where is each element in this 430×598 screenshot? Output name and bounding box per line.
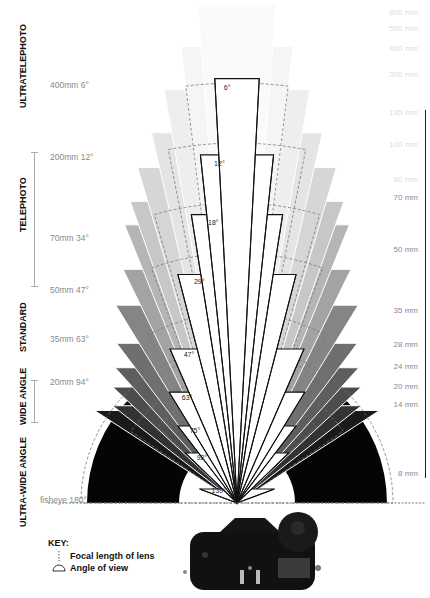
camera-image [180,510,330,596]
focal-length-tick-label: 80 mm [394,175,418,184]
focal-length-icon [48,551,70,561]
category-label: ULTRATELEPHOTO [18,24,28,108]
angle-of-view-icon [48,564,70,572]
lens-example-label: 20mm 94° [50,377,89,387]
legend-key: KEY: Focal length of lens Angle of view [48,538,155,574]
lens-example-label: 200mm 12° [50,152,94,162]
key-label: Angle of view [70,563,128,573]
key-item-focal-length: Focal length of lens [48,550,155,562]
wide-angle-range-bracket [34,380,35,423]
focal-length-tick-label: 8 mm [398,469,418,478]
key-label: Focal length of lens [70,551,155,561]
angle-label: 12° [214,160,225,167]
angle-label: 139° [211,487,226,494]
angle-label: 47° [184,351,195,358]
angle-label: 29° [194,278,205,285]
focal-length-tick-label: 50 mm [394,245,418,254]
focal-length-tick-label: 100 mm [389,140,418,149]
focal-length-tick-label: 135 mm [389,108,418,117]
focal-length-tick-label: 300 mm [389,70,418,79]
focal-length-tick-label: 800 mm [389,8,418,17]
focal-length-tick-label: 28 mm [394,340,418,349]
lens-example-label: 35mm 63° [50,334,89,344]
focal-length-tick-label: 35 mm [394,306,418,315]
focal-length-tick-label: 70 mm [394,193,418,202]
lens-example-label: fisheye 180° [40,495,87,505]
angle-label: 63° [182,394,193,401]
focal-length-tick-label: 20 mm [394,382,418,391]
category-label: TELEPHOTO [18,177,28,232]
category-label: WIDE ANGLE [18,368,28,425]
focal-length-tick-label: 24 mm [394,362,418,371]
lens-example-label: 70mm 34° [50,233,89,243]
lens-example-label: 50mm 47° [50,285,89,295]
key-item-angle-of-view: Angle of view [48,562,155,574]
category-label: STANDARD [18,302,28,352]
category-label: ULTRA-WIDE ANGLE [18,437,28,527]
key-title: KEY: [48,538,155,548]
focal-length-tick-label: 14 mm [394,400,418,409]
telephoto-range-bracket [34,152,35,287]
angle-label: 18° [208,219,219,226]
focal-length-tick-label: 400 mm [389,44,418,53]
focal-scale-line [425,110,426,478]
angle-label: 75° [190,427,201,434]
angle-label: 6° [224,84,231,91]
lens-example-label: 400mm 6° [50,80,89,90]
angle-label: 92° [197,454,208,461]
focal-length-tick-label: 500 mm [389,24,418,33]
